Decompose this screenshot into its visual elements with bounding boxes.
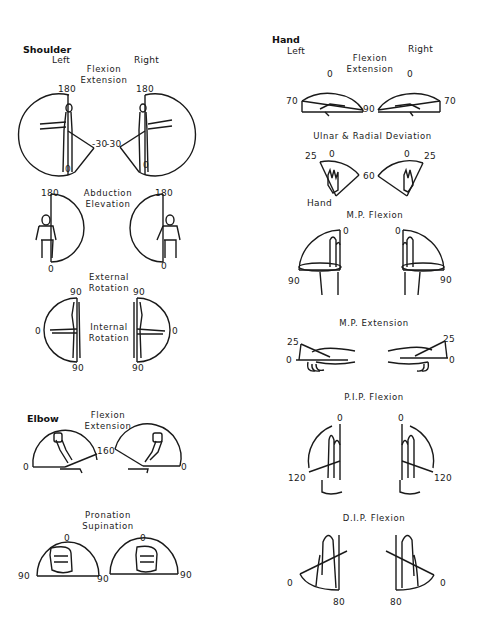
shoulder-rot-right-90-bottom: 90 <box>132 363 144 373</box>
shoulder-flexion-caption: Flexion Extension <box>78 64 130 86</box>
shoulder-external-rotation-caption: External Rotation <box>84 272 134 294</box>
pip-flexion-caption: P.I.P. Flexion <box>334 392 414 403</box>
shoulder-abduction-left-figure <box>36 194 84 262</box>
shoulder-flexion-right-figure <box>120 94 195 176</box>
supination-right-figure <box>110 538 178 574</box>
hand-section-title: Hand <box>272 34 300 45</box>
ulnar-60: 60 <box>363 171 375 181</box>
shoulder-flex-right-180: 180 <box>136 84 154 94</box>
wrist-right-0: 0 <box>407 69 413 79</box>
ulnar-hand-label: Hand <box>307 198 332 208</box>
radial-deviation-right-figure <box>378 161 423 196</box>
shoulder-abd-right-180: 180 <box>155 188 173 198</box>
ulnar-deviation-left-figure <box>320 161 359 196</box>
mp-extension-left-figure <box>296 344 355 371</box>
wrist-left-70: 70 <box>286 96 298 106</box>
mp-flex-left-0: 0 <box>343 226 349 236</box>
shoulder-flexion-left-figure <box>19 94 94 176</box>
shoulder-rot-right-0: 0 <box>172 326 178 336</box>
dip-right-80: 80 <box>390 597 402 607</box>
dip-flexion-caption: D.I.P. Flexion <box>334 513 414 524</box>
mp-ext-left-0: 0 <box>286 355 292 365</box>
shoulder-flex-left-180: 180 <box>58 84 76 94</box>
mp-extension-caption: M.P. Extension <box>332 318 416 329</box>
dip-right-0: 0 <box>440 578 446 588</box>
pip-right-0: 0 <box>398 413 404 423</box>
ulnar-left-0: 0 <box>329 149 335 159</box>
shoulder-rot-right-90-top: 90 <box>133 287 145 297</box>
mp-flexion-caption: M.P. Flexion <box>340 210 410 221</box>
dip-flexion-left-figure <box>300 535 347 590</box>
pronation-caption: Pronation Supination <box>80 510 136 532</box>
shoulder-rot-left-90-top: 90 <box>70 287 82 297</box>
supination-right-90: 90 <box>180 570 192 580</box>
ulnar-left-25: 25 <box>305 151 317 161</box>
pronation-left-0: 0 <box>64 533 70 543</box>
mp-extension-right-figure <box>388 341 448 371</box>
shoulder-flex-right-0: 0 <box>143 160 149 170</box>
elbow-160: 160 <box>97 446 115 456</box>
shoulder-left-label: Left <box>52 55 70 65</box>
shoulder-rot-left-0: 0 <box>35 326 41 336</box>
mp-ext-left-25: 25 <box>287 337 299 347</box>
shoulder-abd-left-0: 0 <box>48 264 54 274</box>
dip-flexion-right-figure <box>386 535 434 590</box>
pip-right-120: 120 <box>434 473 452 483</box>
shoulder-internal-rotation-caption: Internal Rotation <box>84 322 134 344</box>
wrist-flexion-right-figure <box>378 94 440 116</box>
dip-left-80: 80 <box>333 597 345 607</box>
shoulder-right-label: Right <box>134 55 159 65</box>
shoulder-flex-right-neg30: -30 <box>106 139 122 149</box>
radial-right-0: 0 <box>404 149 410 159</box>
hand-right-label: Right <box>408 44 433 54</box>
supination-right-0: 0 <box>140 533 146 543</box>
shoulder-abduction-right-figure <box>130 194 180 262</box>
elbow-flexion-left-figure <box>33 430 97 473</box>
elbow-left-0: 0 <box>23 462 29 472</box>
shoulder-abd-right-0: 0 <box>161 261 167 271</box>
pip-left-0: 0 <box>337 413 343 423</box>
shoulder-rotation-left-figure <box>44 298 80 362</box>
mp-ext-right-25: 25 <box>443 334 455 344</box>
pronation-left-figure <box>37 542 99 576</box>
wrist-90: 90 <box>363 104 375 114</box>
hand-left-label: Left <box>287 46 305 56</box>
mp-flexion-right-figure <box>402 230 444 295</box>
wrist-right-70: 70 <box>444 96 456 106</box>
mp-flex-right-0: 0 <box>395 226 401 236</box>
shoulder-rot-left-90-bottom: 90 <box>72 363 84 373</box>
wrist-flexion-caption: Flexion Extension <box>345 53 395 75</box>
mp-flex-right-90: 90 <box>440 275 452 285</box>
shoulder-rotation-right-figure <box>134 298 170 362</box>
mp-flexion-left-figure <box>299 230 341 295</box>
ulnar-radial-caption: Ulnar & Radial Deviation <box>310 131 435 142</box>
wrist-flexion-left-figure <box>302 93 363 116</box>
radial-right-25: 25 <box>424 151 436 161</box>
wrist-left-0: 0 <box>327 69 333 79</box>
mp-ext-right-0: 0 <box>449 355 455 365</box>
elbow-right-0: 0 <box>181 462 187 472</box>
dip-left-0: 0 <box>287 578 293 588</box>
shoulder-flex-left-0: 0 <box>65 164 71 174</box>
pronation-left-90: 90 <box>18 571 30 581</box>
elbow-flexion-caption: Flexion Extension <box>82 410 134 432</box>
pronation-mid-90: 90 <box>97 574 109 584</box>
elbow-section-title: Elbow <box>27 413 59 424</box>
shoulder-section-title: Shoulder <box>23 44 71 55</box>
shoulder-abduction-caption: Abduction Elevation <box>82 188 134 210</box>
pip-flexion-right-figure <box>400 424 434 494</box>
pip-left-120: 120 <box>288 473 306 483</box>
mp-flex-left-90: 90 <box>288 276 300 286</box>
shoulder-abd-left-180: 180 <box>41 188 59 198</box>
pip-flexion-left-figure <box>308 424 342 494</box>
